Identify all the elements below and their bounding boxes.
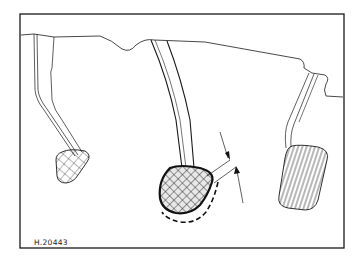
arrowhead-down-icon (225, 151, 230, 160)
pedal-diagram (0, 0, 361, 269)
arrowhead-up-icon (234, 166, 240, 174)
accelerator-pedal (279, 73, 328, 210)
brake-pedal-pad (160, 166, 213, 213)
dimension-line-2 (214, 167, 236, 183)
clutch-pedal (34, 34, 89, 183)
accelerator-pedal-pad (279, 145, 328, 210)
brake-pedal (151, 40, 243, 222)
clutch-pedal-pad (56, 150, 89, 183)
figure-reference-code: H.20443 (34, 238, 68, 247)
dimension-arrow-bottom (237, 171, 243, 203)
